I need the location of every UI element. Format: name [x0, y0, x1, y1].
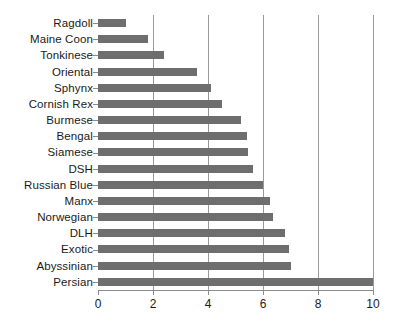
bar-row: [98, 193, 373, 209]
category-axis: RagdollMaine CoonTonkineseOrientalSphynx…: [0, 15, 93, 290]
bar-row: [98, 47, 373, 63]
x-tick-4: [208, 290, 209, 295]
bar-row: [98, 31, 373, 47]
bar: [98, 181, 263, 189]
x-tick-label: 2: [133, 297, 173, 311]
category-tick: [93, 233, 98, 234]
x-tick-2: [153, 290, 154, 295]
bar-row: [98, 80, 373, 96]
category-label: Cornish Rex: [0, 96, 93, 112]
category-tick: [93, 282, 98, 283]
bars-container: [98, 15, 373, 290]
bar-row: [98, 241, 373, 257]
x-tick-6: [263, 290, 264, 295]
bar: [98, 51, 164, 59]
x-tick-10: [373, 290, 374, 295]
bar: [98, 262, 291, 270]
category-label: Abyssinian: [0, 258, 93, 274]
category-label: Sphynx: [0, 80, 93, 96]
bar-row: [98, 96, 373, 112]
bar-row: [98, 144, 373, 160]
x-tick-label: 6: [243, 297, 283, 311]
bar: [98, 132, 247, 140]
category-label: Persian: [0, 274, 93, 290]
category-label: Russian Blue: [0, 177, 93, 193]
bar-row: [98, 225, 373, 241]
bar-chart: RagdollMaine CoonTonkineseOrientalSphynx…: [0, 0, 393, 328]
category-label: Exotic: [0, 241, 93, 257]
category-label: Maine Coon: [0, 31, 93, 47]
category-tick: [93, 55, 98, 56]
x-tick-label: 8: [298, 297, 338, 311]
x-tick-label: 4: [188, 297, 228, 311]
category-label: Oriental: [0, 64, 93, 80]
bar-row: [98, 209, 373, 225]
category-tick: [93, 104, 98, 105]
category-tick: [93, 88, 98, 89]
category-label: Burmese: [0, 112, 93, 128]
bar-row: [98, 177, 373, 193]
bar: [98, 213, 273, 221]
bar: [98, 35, 148, 43]
bar-row: [98, 112, 373, 128]
gridline-10: [373, 15, 374, 290]
bar-row: [98, 15, 373, 31]
bar: [98, 245, 289, 253]
bar: [98, 278, 373, 286]
category-label: DSH: [0, 161, 93, 177]
bar: [98, 100, 222, 108]
category-label: Tonkinese: [0, 47, 93, 63]
bar-row: [98, 258, 373, 274]
bar: [98, 19, 126, 27]
category-label: Manx: [0, 193, 93, 209]
x-axis-line: [98, 290, 374, 291]
category-tick: [93, 169, 98, 170]
category-tick: [93, 250, 98, 251]
bar-row: [98, 64, 373, 80]
category-tick: [93, 217, 98, 218]
category-label: Ragdoll: [0, 15, 93, 31]
x-tick-label: 10: [353, 297, 393, 311]
category-tick: [93, 120, 98, 121]
bar-row: [98, 161, 373, 177]
bar-row: [98, 274, 373, 290]
bar: [98, 229, 285, 237]
bar: [98, 165, 253, 173]
category-tick: [93, 153, 98, 154]
bar: [98, 116, 241, 124]
bar: [98, 68, 197, 76]
category-label: Siamese: [0, 144, 93, 160]
x-tick-0: [98, 290, 99, 295]
bar: [98, 148, 248, 156]
category-tick: [93, 201, 98, 202]
x-tick-8: [318, 290, 319, 295]
category-tick: [93, 72, 98, 73]
category-tick: [93, 266, 98, 267]
category-tick: [93, 185, 98, 186]
category-label: Bengal: [0, 128, 93, 144]
bar-row: [98, 128, 373, 144]
category-tick: [93, 23, 98, 24]
category-label: DLH: [0, 225, 93, 241]
x-tick-label: 0: [78, 297, 118, 311]
category-label: Norwegian: [0, 209, 93, 225]
category-tick: [93, 39, 98, 40]
bar: [98, 84, 211, 92]
bar: [98, 197, 270, 205]
category-tick: [93, 136, 98, 137]
